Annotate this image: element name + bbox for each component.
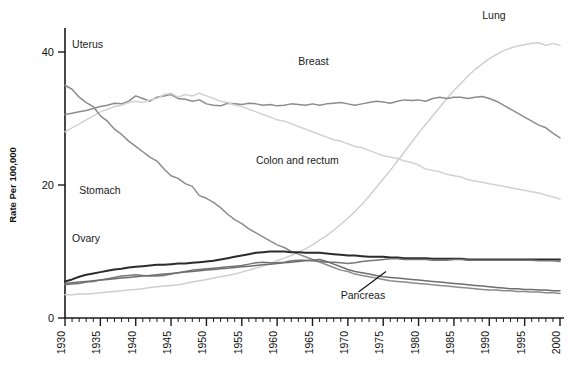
x-tick-label: 2000 (550, 331, 562, 355)
annotation-pancreas: Pancreas (341, 289, 385, 301)
series-line-colon-and-rectum (65, 93, 560, 199)
annotation-uterus: Uterus (72, 38, 103, 50)
series-line-ovary (65, 259, 560, 285)
y-axis-title: Rate Per 100,000 (7, 147, 18, 223)
x-tick-label: 1985 (444, 331, 456, 355)
x-tick-label: 1930 (55, 331, 67, 355)
x-tick-label: 1995 (515, 331, 527, 355)
x-tick-label: 1975 (373, 331, 385, 355)
x-tick-label: 1970 (338, 331, 350, 355)
annotation-ovary: Ovary (72, 232, 101, 244)
cancer-mortality-line-chart: LungBreastColon and rectumStomachUterusO… (0, 0, 576, 371)
axes (58, 28, 564, 326)
annotation-stomach: Stomach (79, 184, 121, 196)
x-tick-label: 1935 (90, 331, 102, 355)
y-tick-label: 0 (48, 312, 54, 324)
x-tick-label: 1950 (196, 331, 208, 355)
x-tick-label: 1945 (161, 331, 173, 355)
series-line-stomach (65, 85, 560, 293)
x-tick-label: 1980 (409, 331, 421, 355)
annotation-breast: Breast (298, 55, 328, 67)
annotation-colon-and-rectum: Colon and rectum (256, 154, 339, 166)
series-line-lung (65, 43, 560, 295)
x-tick-label: 1990 (479, 331, 491, 355)
x-tick-label: 1940 (126, 331, 138, 355)
series-lines (65, 43, 560, 295)
annotation-lung: Lung (482, 9, 506, 21)
y-tick-label: 40 (42, 46, 54, 58)
chart-canvas: LungBreastColon and rectumStomachUterusO… (0, 0, 576, 371)
x-tick-label: 1955 (232, 331, 244, 355)
x-tick-label: 1965 (303, 331, 315, 355)
y-tick-label: 20 (42, 179, 54, 191)
tick-labels: 0204019301935194019451950195519601965197… (7, 46, 562, 354)
x-tick-label: 1960 (267, 331, 279, 355)
